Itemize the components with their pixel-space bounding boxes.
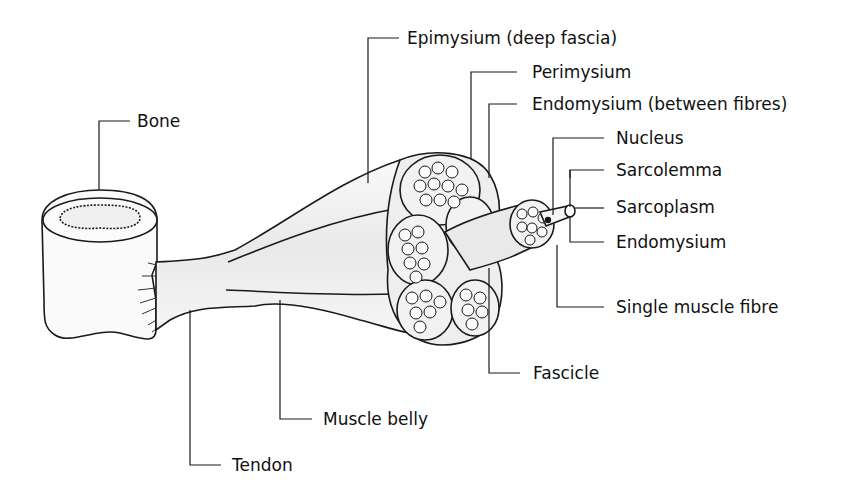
label-bone: Bone: [137, 111, 180, 131]
label-sarcoplasm: Sarcoplasm: [616, 197, 715, 217]
label-epimysium: Epimysium (deep fascia): [407, 28, 617, 48]
label-nucleus: Nucleus: [616, 128, 684, 148]
label-endomysium-between: Endomysium (between fibres): [532, 94, 787, 114]
label-single-muscle-fibre: Single muscle fibre: [616, 297, 778, 317]
label-perimysium: Perimysium: [532, 62, 631, 82]
label-sarcolemma: Sarcolemma: [616, 160, 722, 180]
bone-shape: [42, 190, 157, 339]
muscle-structure-diagram: Bone Epimysium (deep fascia) Perimysium …: [0, 0, 852, 503]
label-muscle-belly: Muscle belly: [323, 409, 428, 429]
label-fascicle: Fascicle: [533, 363, 599, 383]
label-endomysium: Endomysium: [616, 232, 726, 252]
label-tendon: Tendon: [232, 455, 293, 475]
